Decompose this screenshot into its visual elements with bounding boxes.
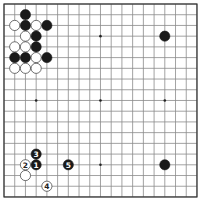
white-stone <box>31 63 41 73</box>
black-stone <box>42 53 52 63</box>
white-stone-disc <box>20 31 30 41</box>
black-stone-disc <box>42 20 52 30</box>
star-point <box>99 164 102 167</box>
white-stone-disc <box>10 20 20 30</box>
black-stone-disc <box>42 53 52 63</box>
white-stone <box>10 20 20 30</box>
white-stone-disc <box>20 42 30 52</box>
star-point <box>35 99 38 102</box>
move-1-black-stone: 1 <box>31 160 41 170</box>
move-number-label: 3 <box>34 150 39 159</box>
white-stone <box>20 63 30 73</box>
white-stone <box>20 170 30 180</box>
white-stone <box>10 42 20 52</box>
black-stone <box>160 31 170 41</box>
white-stone <box>20 31 30 41</box>
black-stone <box>31 31 41 41</box>
white-stone <box>20 42 30 52</box>
white-stone-disc <box>20 63 30 73</box>
move-3-black-stone: 3 <box>31 149 41 159</box>
black-stone <box>20 10 30 20</box>
black-stone <box>160 160 170 170</box>
star-point <box>99 35 102 38</box>
go-board: 12345 <box>0 0 204 202</box>
black-stone-disc <box>160 160 170 170</box>
black-stone-disc <box>31 31 41 41</box>
black-stone-disc <box>20 53 30 63</box>
move-number-label: 4 <box>44 182 49 191</box>
black-stone-disc <box>20 10 30 20</box>
star-point <box>99 99 102 102</box>
white-stone-disc <box>31 63 41 73</box>
black-stone <box>20 20 30 30</box>
move-4-white-stone: 4 <box>42 181 52 191</box>
white-stone <box>31 20 41 30</box>
black-stone <box>10 53 20 63</box>
black-stone-disc <box>160 31 170 41</box>
move-2-white-stone: 2 <box>20 160 30 170</box>
white-stone <box>31 53 41 63</box>
black-stone-disc <box>31 42 41 52</box>
move-number-label: 2 <box>23 161 28 170</box>
move-number-label: 1 <box>34 161 39 170</box>
white-stone <box>10 63 20 73</box>
black-stone-disc <box>10 53 20 63</box>
move-number-label: 5 <box>66 161 71 170</box>
white-stone-disc <box>10 42 20 52</box>
white-stone-disc <box>31 20 41 30</box>
move-5-black-stone: 5 <box>63 160 73 170</box>
white-stone-disc <box>31 53 41 63</box>
white-stone-disc <box>10 63 20 73</box>
star-point <box>164 99 167 102</box>
black-stone <box>42 20 52 30</box>
black-stone <box>20 53 30 63</box>
black-stone <box>31 42 41 52</box>
black-stone-disc <box>20 20 30 30</box>
white-stone-disc <box>20 170 30 180</box>
